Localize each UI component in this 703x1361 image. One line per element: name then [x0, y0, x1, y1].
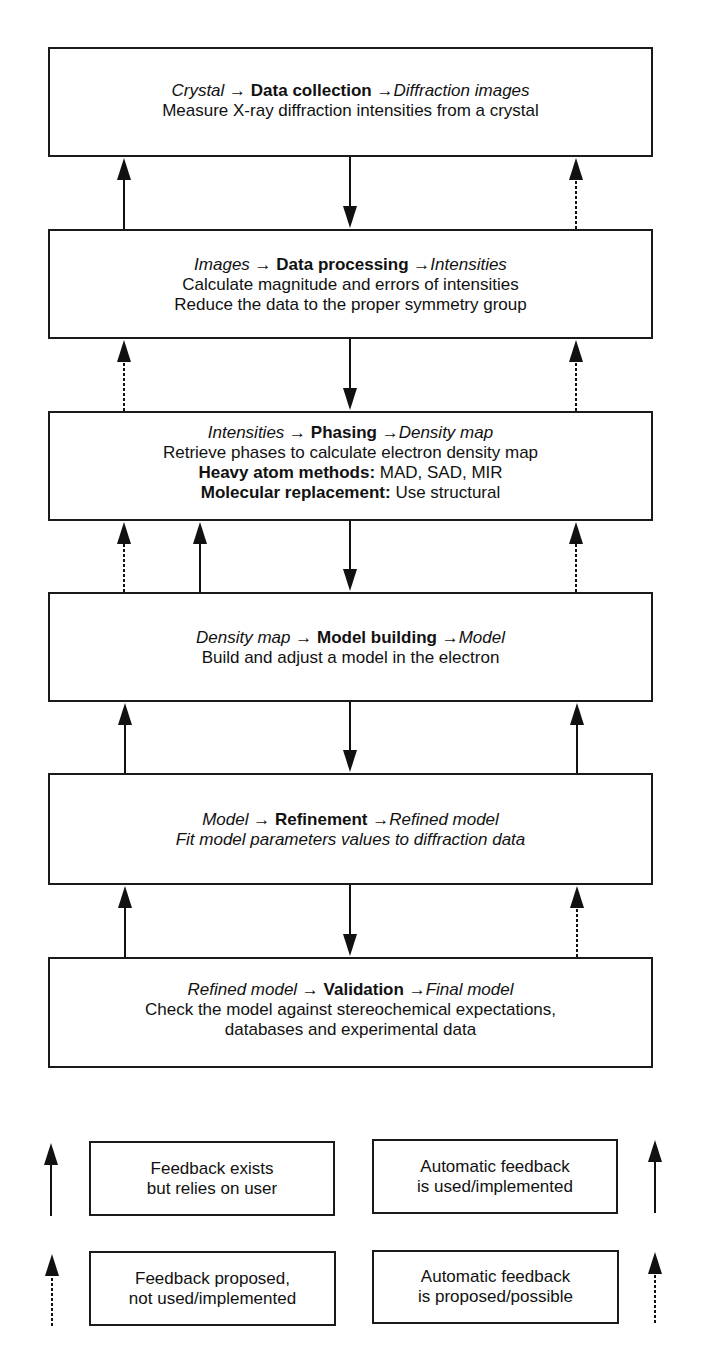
arrow-glyph: → [372, 810, 389, 829]
stage-header: Crystal → Data collection →Diffraction i… [50, 81, 651, 101]
legend-arrowhead-solid-right [648, 1140, 662, 1162]
stage-output: Diffraction images [393, 81, 529, 100]
stage-box-data-processing: Images → Data processing →Intensities Ca… [48, 229, 653, 339]
arrow-glyph: → [442, 628, 459, 647]
stage-box-data-collection: Crystal → Data collection →Diffraction i… [48, 47, 653, 157]
legend-item-auto-used: Automatic feedback is used/implemented [372, 1139, 618, 1214]
arrow-glyph: → [409, 980, 426, 999]
stage-input: Crystal [171, 81, 224, 100]
stage-box-model-building: Density map → Model building →Model Buil… [48, 592, 653, 702]
arrow-glyph: → [253, 810, 270, 829]
legend-text-line: Feedback exists [151, 1159, 274, 1179]
arrow-glyph: → [382, 423, 399, 442]
legend-text-line: is used/implemented [417, 1177, 573, 1197]
arrow-glyph: → [376, 81, 393, 100]
method-value: Use structural [391, 483, 501, 502]
stage-description: databases and experimental data [50, 1020, 651, 1040]
stage-output: Model [459, 628, 505, 647]
stage-header: Density map → Model building →Model [50, 628, 651, 648]
stage-box-validation: Refined model → Validation →Final model … [48, 957, 653, 1068]
legend-item-user-feedback: Feedback exists but relies on user [89, 1141, 335, 1216]
stage-output: Refined model [389, 810, 499, 829]
stage-box-refinement: Model → Refinement →Refined model Fit mo… [48, 773, 653, 885]
legend-text-line: is proposed/possible [418, 1287, 573, 1307]
stage-output: Density map [399, 423, 493, 442]
stage-header: Intensities → Phasing →Density map [50, 423, 651, 443]
stage-description: Retrieve phases to calculate electron de… [50, 443, 651, 463]
stage-output: Final model [426, 980, 514, 999]
stage-description: Reduce the data to the proper symmetry g… [50, 295, 651, 315]
stage-input: Intensities [208, 423, 285, 442]
arrow-glyph: → [229, 81, 246, 100]
arrow-glyph: → [255, 255, 272, 274]
legend-arrowhead-dotted-left [45, 1254, 59, 1276]
stage-title: Data collection [251, 81, 372, 100]
legend-item-proposed: Feedback proposed, not used/implemented [89, 1251, 336, 1326]
method-label: Molecular replacement: [201, 483, 391, 502]
arrow-glyph: → [295, 628, 312, 647]
stage-description: Fit model parameters values to diffracti… [50, 830, 651, 850]
legend-item-auto-proposed: Automatic feedback is proposed/possible [372, 1250, 619, 1324]
stage-title: Model building [317, 628, 437, 647]
stage-box-phasing: Intensities → Phasing →Density map Retri… [48, 411, 653, 521]
legend-text-line: not used/implemented [129, 1289, 296, 1309]
stage-title: Refinement [275, 810, 368, 829]
arrow-glyph: → [289, 423, 306, 442]
stage-input: Model [202, 810, 248, 829]
stage-method-molecular-replacement: Molecular replacement: Use structural [50, 483, 651, 503]
stage-description: Build and adjust a model in the electron [50, 648, 651, 668]
arrow-glyph: → [302, 980, 319, 999]
stage-header: Model → Refinement →Refined model [50, 810, 651, 830]
legend-text-line: Automatic feedback [421, 1267, 570, 1287]
arrow-glyph: → [413, 255, 430, 274]
stage-title: Data processing [276, 255, 408, 274]
stage-output: Intensities [430, 255, 507, 274]
method-label: Heavy atom methods: [198, 463, 375, 482]
stage-description: Check the model against stereochemical e… [50, 1000, 651, 1020]
legend-arrowhead-dotted-right [648, 1252, 662, 1274]
stage-description: Measure X-ray diffraction intensities fr… [50, 101, 651, 121]
stage-description: Calculate magnitude and errors of intens… [50, 275, 651, 295]
method-value: MAD, SAD, MIR [375, 463, 503, 482]
stage-input: Images [194, 255, 250, 274]
stage-header: Refined model → Validation →Final model [50, 980, 651, 1000]
legend-text-line: Feedback proposed, [135, 1269, 290, 1289]
stage-method-heavy-atom: Heavy atom methods: MAD, SAD, MIR [50, 463, 651, 483]
legend-text-line: Automatic feedback [420, 1157, 569, 1177]
stage-input: Density map [196, 628, 290, 647]
stage-title: Phasing [311, 423, 377, 442]
legend-text-line: but relies on user [147, 1179, 277, 1199]
legend-arrowhead-solid-left [44, 1143, 58, 1165]
stage-title: Validation [324, 980, 404, 999]
stage-header: Images → Data processing →Intensities [50, 255, 651, 275]
stage-input: Refined model [188, 980, 298, 999]
